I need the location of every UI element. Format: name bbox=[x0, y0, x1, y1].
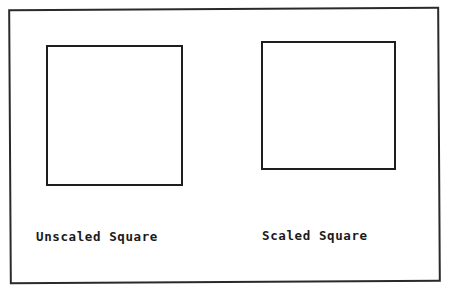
unscaled-square bbox=[46, 45, 183, 186]
unscaled-square-label: Unscaled Square bbox=[36, 230, 158, 244]
scaled-square-label: Scaled Square bbox=[262, 229, 368, 243]
scaled-square bbox=[261, 41, 396, 170]
